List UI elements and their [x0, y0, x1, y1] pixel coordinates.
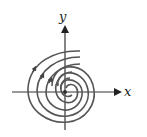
phase-portrait: x y [0, 0, 147, 137]
spiral-trajectories [28, 51, 94, 122]
origin-point [63, 90, 67, 94]
y-axis-label: y [58, 9, 67, 24]
trajectory-4 [56, 72, 78, 103]
direction-arrow-icon [33, 68, 35, 72]
x-axis-label: x [124, 84, 132, 99]
